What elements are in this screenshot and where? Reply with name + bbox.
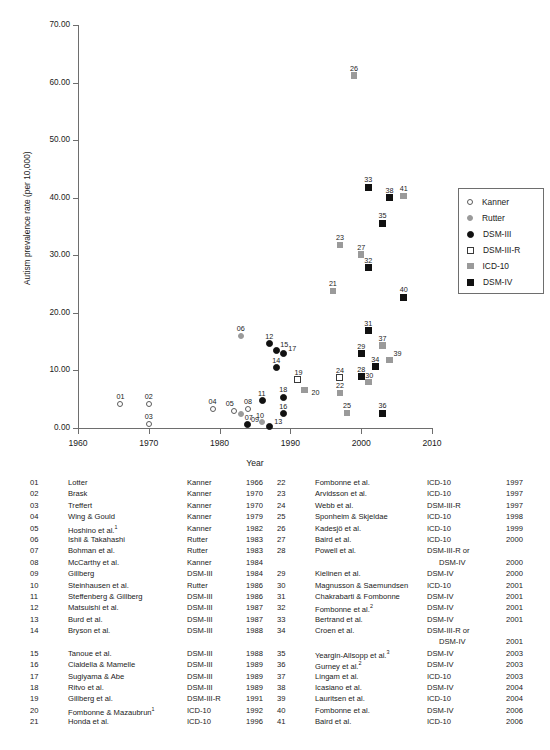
reference-author: Powell et al. <box>315 546 356 555</box>
reference-number: 21 <box>30 717 46 726</box>
reference-number: 10 <box>30 581 46 590</box>
data-point-22[interactable] <box>337 390 344 397</box>
data-point-38[interactable] <box>386 194 393 201</box>
reference-year: 1988 <box>235 649 263 658</box>
reference-author: Matsuishi et al. <box>68 603 119 612</box>
data-point-19[interactable] <box>294 376 301 383</box>
data-point-13[interactable] <box>266 423 273 430</box>
data-point-label-26: 26 <box>350 64 358 73</box>
data-point-08[interactable] <box>245 406 251 412</box>
reference-number: 37 <box>277 672 293 681</box>
data-point-02[interactable] <box>146 401 152 407</box>
legend-item-kanner[interactable]: Kanner <box>467 197 509 207</box>
y-tick-label: 60.00 <box>26 78 70 87</box>
reference-criteria: DSM-IV <box>427 558 466 567</box>
reference-year: 1988 <box>235 626 263 635</box>
legend-item-dsm-iii[interactable]: DSM-III <box>467 229 511 239</box>
x-tick-label: 1990 <box>270 438 310 448</box>
data-point-41[interactable] <box>400 193 407 200</box>
reference-year: 1992 <box>235 706 263 715</box>
data-point-35[interactable] <box>379 220 386 227</box>
reference-author: Treffert <box>68 501 92 510</box>
reference-column-left: 01LotterKanner196602BraskKanner197003Tre… <box>30 478 280 729</box>
legend-swatch-open-square-icon <box>467 247 474 254</box>
x-axis-title: Year <box>38 458 472 468</box>
data-point-20[interactable] <box>301 387 308 394</box>
legend-label: DSM-IV <box>483 277 512 287</box>
reference-criteria: Kanner <box>187 501 212 510</box>
data-point-label-17: 17 <box>288 344 296 353</box>
data-point-12[interactable] <box>266 340 273 347</box>
legend-label: Kanner <box>482 197 509 207</box>
reference-author: Sugiyama & Abe <box>68 672 124 681</box>
reference-author: Chakrabarti & Fombonne <box>315 592 400 601</box>
data-point-07[interactable] <box>238 411 244 417</box>
reference-year: 2000 <box>495 558 523 567</box>
reference-criteria: DSM-IV <box>427 706 454 715</box>
data-point-36[interactable] <box>379 410 386 417</box>
data-point-25[interactable] <box>344 410 351 417</box>
x-tick-mark <box>220 429 221 434</box>
reference-row: 02BraskKanner1970 <box>30 489 280 500</box>
legend-label: Rutter <box>482 213 505 223</box>
reference-criteria: ICD-10 <box>427 478 451 487</box>
data-point-17[interactable] <box>280 350 287 357</box>
y-tick-mark <box>73 140 78 141</box>
reference-year: 1997 <box>495 489 523 498</box>
data-point-29[interactable] <box>358 350 365 357</box>
data-point-37[interactable] <box>379 342 386 349</box>
reference-author: Kadesjö et al. <box>315 524 361 533</box>
legend-item-rutter[interactable]: Rutter <box>467 213 505 223</box>
reference-row: 27Baird et al.ICD-102000 <box>277 535 547 546</box>
data-point-23[interactable] <box>337 242 344 249</box>
reference-year: 1970 <box>235 489 263 498</box>
data-point-21[interactable] <box>330 288 337 295</box>
legend-item-dsm-iv[interactable]: DSM-IV <box>467 277 512 287</box>
reference-number: 07 <box>30 546 46 555</box>
legend-swatch-grey-square-icon <box>467 263 474 270</box>
reference-row: 01LotterKanner1966 <box>30 478 280 489</box>
reference-criteria: ICD-10 <box>427 672 451 681</box>
data-point-24[interactable] <box>336 374 343 381</box>
data-point-label-41: 41 <box>400 184 408 193</box>
data-point-06[interactable] <box>238 333 244 339</box>
reference-author: Baird et al. <box>315 535 351 544</box>
reference-criteria: DSM-III <box>187 660 213 669</box>
data-point-40[interactable] <box>400 294 407 301</box>
legend-item-dsm-iii-r[interactable]: DSM-III-R <box>467 245 520 255</box>
reference-row: 06Ishii & TakahashiRutter1983 <box>30 535 280 546</box>
data-point-18[interactable] <box>280 394 287 401</box>
reference-year: 1982 <box>235 524 263 533</box>
reference-row: 13Burd et al.DSM-III1987 <box>30 615 280 626</box>
reference-author: Wing & Gould <box>68 512 115 521</box>
reference-number: 32 <box>277 603 293 612</box>
data-point-15[interactable] <box>273 347 280 354</box>
data-point-11[interactable] <box>259 397 266 404</box>
reference-row: 33Bertrand et al.DSM-IV2001 <box>277 615 547 626</box>
reference-author: Honda et al. <box>68 717 109 726</box>
data-point-39[interactable] <box>386 357 393 364</box>
data-point-label-06: 06 <box>237 324 245 333</box>
data-point-33[interactable] <box>365 184 372 191</box>
data-point-28[interactable] <box>358 373 365 380</box>
data-point-31[interactable] <box>365 327 372 334</box>
reference-year: 1999 <box>495 524 523 533</box>
data-point-16[interactable] <box>280 410 287 417</box>
reference-number: 09 <box>30 569 46 578</box>
data-point-26[interactable] <box>351 72 358 79</box>
reference-year: 1991 <box>235 694 263 703</box>
data-point-01[interactable] <box>117 401 123 407</box>
data-point-05[interactable] <box>231 408 237 414</box>
data-point-14[interactable] <box>273 364 280 371</box>
data-point-32[interactable] <box>365 264 372 271</box>
reference-row: 41Baird et al.ICD-102006 <box>277 717 547 728</box>
data-point-03[interactable] <box>146 421 152 427</box>
reference-row: 17Sugiyama & AbeDSM-III1989 <box>30 672 280 683</box>
data-point-04[interactable] <box>210 406 216 412</box>
legend-swatch-black-square-icon <box>467 279 474 286</box>
legend-item-icd-10[interactable]: ICD-10 <box>467 261 509 271</box>
reference-author: Lotter <box>68 478 87 487</box>
data-point-label-15: 15 <box>280 340 288 349</box>
data-point-34[interactable] <box>372 363 379 370</box>
reference-row-continuation <box>30 637 280 648</box>
